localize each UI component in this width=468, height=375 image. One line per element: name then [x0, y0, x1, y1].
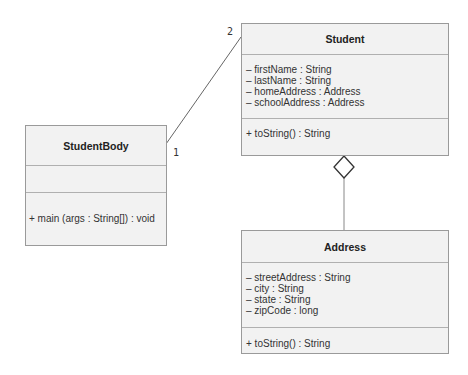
method: + toString() : String [246, 338, 448, 349]
attribute: – streetAddress : String [246, 272, 448, 283]
class-studentbody[interactable]: StudentBody + main (args : String[]) : v… [25, 125, 167, 246]
class-address-methods: + toString() : String [242, 328, 448, 353]
class-studentbody-title: StudentBody [26, 126, 166, 166]
attribute: – schoolAddress : Address [246, 97, 448, 108]
class-address[interactable]: Address – streetAddress : String – city … [241, 230, 449, 354]
attribute: – city : String [246, 283, 448, 294]
class-address-attributes: – streetAddress : String – city : String… [242, 263, 448, 328]
class-student-title: Student [242, 24, 448, 55]
method: + main (args : String[]) : void [29, 213, 166, 224]
method: + toString() : String [246, 128, 448, 139]
multiplicity-student-end: 2 [227, 26, 233, 37]
class-studentbody-attributes [26, 166, 166, 193]
attribute: – zipCode : long [246, 305, 448, 316]
attribute: – homeAddress : Address [246, 86, 448, 97]
class-student-attributes: – firstName : String – lastName : String… [242, 55, 448, 119]
class-student[interactable]: Student – firstName : String – lastName … [241, 23, 449, 156]
aggregation-diamond-icon [334, 156, 354, 178]
attribute: – state : String [246, 294, 448, 305]
association-line [166, 37, 241, 144]
class-address-title: Address [242, 231, 448, 263]
attribute: – firstName : String [246, 64, 448, 75]
attribute: – lastName : String [246, 75, 448, 86]
class-student-methods: + toString() : String [242, 119, 448, 155]
class-studentbody-methods: + main (args : String[]) : void [26, 193, 166, 245]
multiplicity-studentbody-end: 1 [173, 147, 179, 158]
